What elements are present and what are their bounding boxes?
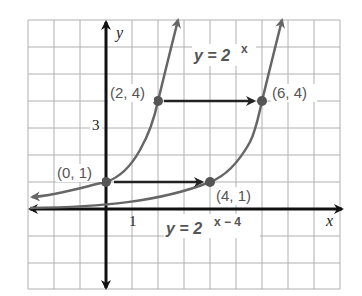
y-tick-label-3: 3 [92,117,100,133]
label-equation-2-to-x: y = 2 [193,47,230,64]
label-point-0-1: (0, 1) [57,164,92,181]
point-4-1 [205,177,215,187]
x-tick-label-1: 1 [129,213,137,229]
point-0-1 [101,177,111,187]
y-axis-label: y [114,24,124,42]
label-equation-2-to-x-minus-4: y = 2 [165,220,202,237]
point-6-4 [257,96,267,106]
grid [28,20,340,289]
x-axis-label: x [325,212,333,229]
label-equation-2-to-x-minus-4-exponent: x − 4 [214,215,241,229]
graph: (2, 4) (6, 4) (0, 1) (4, 1) y = 2 x y = … [0,0,362,296]
curve-2-to-x [32,182,106,197]
label-point-2-4: (2, 4) [110,84,145,101]
point-2-4 [153,96,163,106]
label-point-4-1: (4, 1) [216,187,251,204]
label-point-6-4: (6, 4) [272,84,307,101]
label-equation-2-to-x-exponent: x [241,42,248,56]
